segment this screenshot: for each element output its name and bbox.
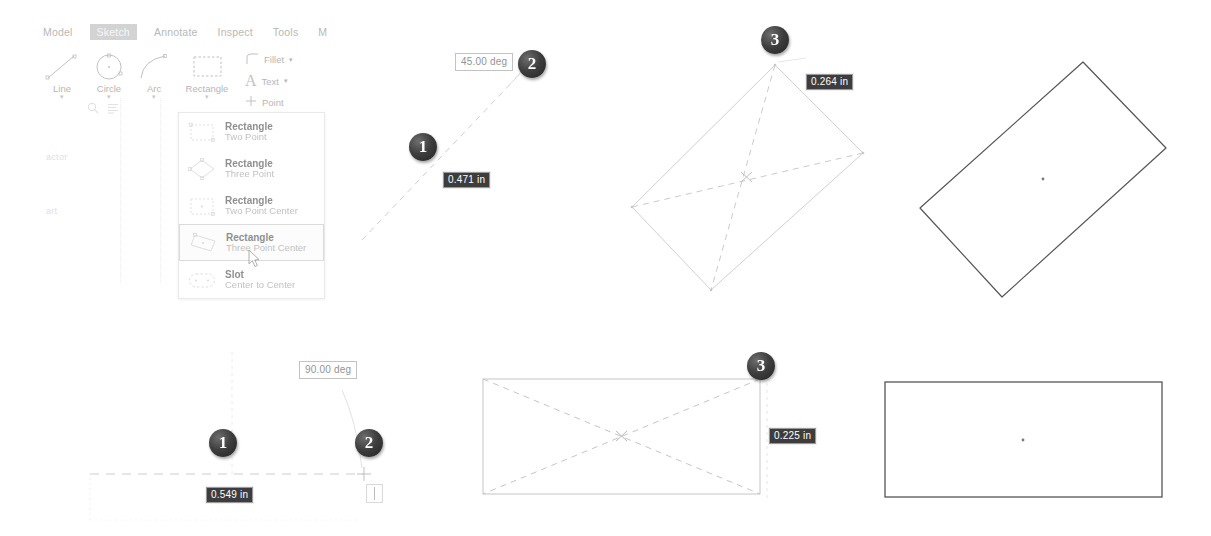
browser-toolbar (87, 100, 119, 118)
angle-input-top[interactable]: 45.00 deg (455, 53, 513, 71)
length-input-top[interactable]: 0.471 in (443, 172, 490, 188)
tab-sketch[interactable]: Sketch (90, 24, 137, 40)
browser-item-actor[interactable]: actor (46, 152, 68, 162)
ribbon-label-text: Text (262, 76, 279, 87)
browser-divider (120, 98, 121, 283)
menu-item-subtitle: Two Point (225, 132, 273, 143)
ribbon-tab-bar: Model Sketch Annotate Inspect Tools M (40, 24, 330, 40)
tab-annotate[interactable]: Annotate (151, 25, 201, 39)
menu-item-subtitle: Center to Center (225, 280, 295, 291)
angle-input-bottom[interactable]: 90.00 deg (299, 361, 357, 379)
ribbon-button-text[interactable]: A Text ▾ (245, 74, 288, 88)
ribbon-button-rectangle[interactable]: Rectangle ▾ (174, 52, 240, 99)
rectangle-dropdown-menu[interactable]: Rectangle Two Point Rectangle Three Poin… (178, 112, 325, 299)
browser-panel: actor art (0, 98, 125, 283)
chevron-down-icon[interactable]: ▾ (135, 94, 173, 99)
inline-value-field[interactable] (366, 484, 383, 503)
tab-tools[interactable]: Tools (270, 25, 302, 39)
browser-item-art[interactable]: art (46, 206, 57, 216)
bottom-result-rectangle (885, 382, 1162, 497)
length-input-bottom[interactable]: 0.549 in (206, 487, 253, 503)
menu-item-subtitle: Three Point Center (226, 243, 306, 254)
step-badge-bottom-1: 1 (209, 429, 237, 457)
line-icon (40, 52, 84, 82)
step-badge-top-2: 2 (518, 50, 546, 78)
ribbon-label-point: Point (262, 97, 284, 108)
fillet-icon (245, 52, 259, 67)
width-input-bottom[interactable]: 0.225 in (769, 428, 816, 444)
arc-icon (135, 52, 173, 82)
menu-item-rectangle-two-point[interactable]: Rectangle Two Point (179, 113, 324, 150)
menu-item-subtitle: Two Point Center (225, 206, 298, 217)
tab-model[interactable]: Model (40, 25, 76, 39)
ribbon-button-point[interactable]: Point (245, 95, 284, 109)
ribbon-button-line[interactable]: Line ▾ (40, 52, 84, 99)
circle-icon (85, 52, 133, 82)
top-step3-rotated-rectangle (631, 58, 865, 291)
chevron-down-icon[interactable]: ▾ (174, 94, 240, 99)
rectangle-three-point-icon (185, 156, 219, 182)
tab-inspect[interactable]: Inspect (215, 25, 256, 39)
ribbon-label-fillet: Fillet (264, 54, 284, 65)
slot-center-to-center-icon (185, 267, 219, 293)
top-result-rectangle (920, 62, 1166, 297)
step-badge-top-1: 1 (409, 133, 437, 161)
text-icon: A (245, 74, 257, 88)
point-icon (245, 95, 257, 109)
ribbon-button-fillet[interactable]: Fillet ▾ (245, 52, 293, 67)
tab-manage[interactable]: M (315, 25, 330, 39)
width-input-top[interactable]: 0.264 in (806, 74, 853, 90)
rectangle-icon (174, 52, 240, 82)
ribbon-button-arc[interactable]: Arc ▾ (135, 52, 173, 99)
search-icon[interactable] (87, 100, 99, 118)
chevron-down-icon[interactable]: ▾ (289, 56, 293, 64)
rectangle-two-point-icon (185, 119, 219, 145)
bottom-step3-rectangle (483, 376, 767, 500)
top-step1-construction-line (362, 70, 523, 240)
menu-item-subtitle: Three Point (225, 169, 274, 180)
menu-item-slot-center-to-center[interactable]: Slot Center to Center (179, 261, 324, 298)
menu-item-rectangle-two-point-center[interactable]: Rectangle Two Point Center (179, 187, 324, 224)
step-badge-bottom-2: 2 (355, 429, 383, 457)
step-badge-top-3: 3 (761, 26, 789, 54)
list-filter-icon[interactable] (107, 100, 119, 118)
rectangle-two-point-center-icon (185, 193, 219, 219)
panel-divider (160, 98, 161, 283)
step-badge-bottom-3: 3 (747, 352, 775, 380)
chevron-down-icon[interactable]: ▾ (284, 77, 288, 85)
menu-item-rectangle-three-point-center[interactable]: Rectangle Three Point Center (179, 224, 324, 261)
menu-item-rectangle-three-point[interactable]: Rectangle Three Point (179, 150, 324, 187)
ribbon-button-circle[interactable]: Circle ▾ (85, 52, 133, 99)
rectangle-three-point-center-icon (186, 230, 220, 256)
